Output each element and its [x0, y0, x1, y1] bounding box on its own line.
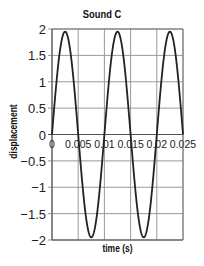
y-tick-label: 1.5	[28, 48, 46, 63]
y-tick-label: 0	[39, 128, 46, 143]
y-tick-label: −2	[31, 233, 46, 248]
y-tick-label: 1	[39, 75, 46, 90]
y-tick-label: −0.5	[20, 154, 46, 169]
y-tick-label: 0.5	[28, 101, 46, 116]
y-tick-label: −1	[31, 180, 46, 195]
y-tick-label: −1.5	[20, 207, 46, 222]
y-tick-label: 2	[39, 22, 46, 37]
plot-area: 21.510.50−0.5−1−1.5−200.0050.010.0150.02…	[0, 0, 204, 266]
